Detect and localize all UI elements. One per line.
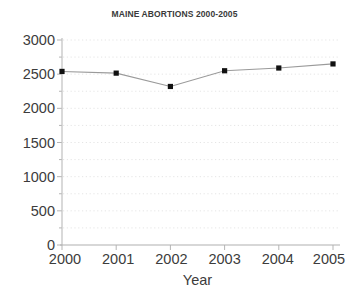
data-line: [62, 64, 333, 87]
chart-canvas: [0, 0, 349, 295]
data-point-markers: [59, 61, 335, 89]
data-point-marker: [168, 84, 173, 89]
data-point-marker: [276, 65, 281, 70]
data-point-marker: [59, 69, 64, 74]
data-point-marker: [330, 61, 335, 66]
data-point-marker: [222, 68, 227, 73]
line-chart: MAINE ABORTIONS 2000-2005 3000 2500 2000…: [0, 0, 349, 295]
gridlines: [63, 40, 338, 228]
data-point-marker: [114, 71, 119, 76]
axis-ticks: [57, 40, 333, 250]
